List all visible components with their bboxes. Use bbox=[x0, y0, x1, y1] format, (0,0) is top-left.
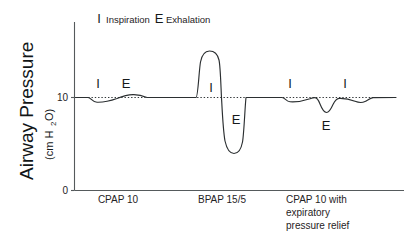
x-category-label-epr: CPAP 10 with expiratory pressure relief bbox=[286, 194, 350, 231]
marker-exhalation-bpap: E bbox=[232, 112, 241, 127]
x-category-label-bpap: BPAP 15/5 bbox=[198, 194, 246, 205]
legend: I Inspiration E Exhalation bbox=[97, 11, 210, 26]
y-tick-label-10: 10 bbox=[57, 92, 69, 103]
marker-exhalation-cpap10: E bbox=[122, 76, 131, 91]
marker-exhalation-epr: E bbox=[322, 118, 331, 133]
chart-canvas: Airway Pressure (cm H 2 O) 10 0 I Inspir… bbox=[0, 0, 412, 241]
legend-label-exhalation: Exhalation bbox=[166, 14, 210, 25]
x-category-label-cpap10: CPAP 10 bbox=[98, 194, 139, 205]
y-axis-units-suffix: O) bbox=[43, 109, 55, 121]
y-tick-label-0: 0 bbox=[62, 185, 68, 196]
x-category-label-epr-line3: pressure relief bbox=[286, 220, 350, 231]
x-category-label-epr-line2: expiratory bbox=[286, 207, 330, 218]
waveform-bpap155 bbox=[168, 51, 274, 154]
marker-inspiration-epr-second: I bbox=[343, 76, 347, 91]
legend-symbol-inspiration: I bbox=[97, 11, 101, 26]
waveform-cpap10-epr bbox=[274, 98, 396, 113]
y-axis-units-prefix: (cm H bbox=[43, 131, 55, 160]
marker-inspiration-cpap10: I bbox=[96, 76, 100, 91]
y-axis-label-group: Airway Pressure (cm H 2 O) bbox=[16, 42, 58, 180]
legend-symbol-exhalation: E bbox=[155, 11, 164, 26]
marker-inspiration-bpap: I bbox=[209, 80, 213, 95]
y-axis-label: Airway Pressure bbox=[16, 42, 37, 180]
y-axis-units-group: (cm H 2 O) bbox=[43, 109, 58, 160]
x-category-label-epr-line1: CPAP 10 with bbox=[286, 194, 347, 205]
legend-label-inspiration: Inspiration bbox=[106, 14, 150, 25]
marker-inspiration-epr-first: I bbox=[288, 76, 292, 91]
waveform-cpap10 bbox=[76, 95, 168, 103]
airway-pressure-chart: Airway Pressure (cm H 2 O) 10 0 I Inspir… bbox=[0, 0, 412, 241]
